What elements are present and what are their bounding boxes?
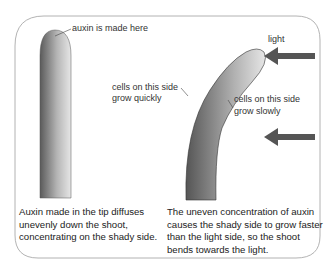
light-arrow-bottom (264, 128, 315, 146)
cells-slow-label-line2: grow slowly (234, 106, 281, 117)
left-caption-line: concentrating on the shady side. (19, 231, 157, 244)
right-caption: The uneven concentration of auxin causes… (167, 206, 323, 256)
cells-quick-label-line1: cells on this side (112, 82, 178, 93)
right-caption-line: The uneven concentration of auxin (167, 206, 323, 219)
straight-shoot (40, 30, 71, 198)
bending-shoot (186, 49, 266, 200)
cells-slow-label-line1: cells on this side (234, 94, 300, 105)
cells-quick-label-line2: grow quickly (112, 93, 162, 104)
right-caption-line: than the light side, so the shoot (167, 231, 323, 244)
quick-side-pointer-line (181, 88, 188, 96)
left-caption: Auxin made in the tip diffuses unevenly … (19, 206, 157, 244)
left-caption-line: unevenly down the shoot, (19, 219, 157, 232)
right-caption-line: bends towards the light. (167, 244, 323, 257)
right-caption-line: causes the shady side to grow faster (167, 219, 323, 232)
light-arrow-top (264, 47, 315, 65)
light-label: light (268, 34, 285, 45)
auxin-made-label: auxin is made here (72, 23, 148, 34)
left-caption-line: Auxin made in the tip diffuses (19, 206, 157, 219)
